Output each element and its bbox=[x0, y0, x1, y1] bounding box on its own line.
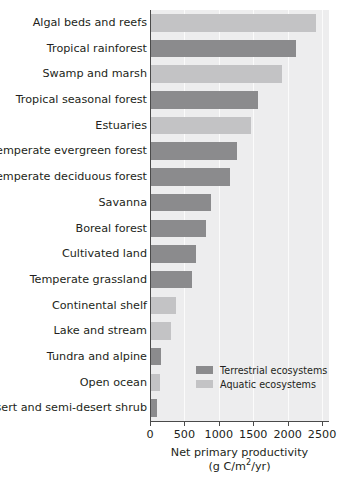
chart-row: Cultivated land bbox=[0, 241, 344, 267]
category-label: Desert and semi-desert shrub bbox=[0, 395, 147, 421]
chart-row: Estuaries bbox=[0, 113, 344, 139]
chart-row: Temperate grassland bbox=[0, 267, 344, 293]
x-axis-title: Net primary productivity (g C/m2/yr) bbox=[150, 446, 329, 474]
bar bbox=[151, 399, 157, 417]
x-tick-label: 2500 bbox=[292, 428, 344, 441]
x-axis-line bbox=[150, 421, 329, 422]
bar bbox=[151, 374, 160, 392]
category-label: Tropical rainforest bbox=[47, 36, 147, 62]
category-label: Tundra and alpine bbox=[47, 344, 147, 370]
legend-label-aquatic: Aquatic ecosystems bbox=[220, 379, 316, 390]
x-axis-title-line2: (g C/m2/yr) bbox=[150, 460, 329, 474]
chart-row: Tropical rainforest bbox=[0, 36, 344, 62]
chart-row: Desert and semi-desert shrub bbox=[0, 395, 344, 421]
category-label: Cultivated land bbox=[62, 241, 147, 267]
npp-bar-chart: Algal beds and reefsTropical rainforestS… bbox=[0, 0, 344, 483]
category-label: Open ocean bbox=[80, 370, 147, 396]
chart-row: Temperate deciduous forest bbox=[0, 164, 344, 190]
bar bbox=[151, 322, 171, 340]
x-tick-mark bbox=[322, 421, 323, 426]
legend-swatch-terrestrial-icon bbox=[196, 366, 213, 374]
chart-legend: Terrestrial ecosystems Aquatic ecosystem… bbox=[196, 363, 327, 391]
x-tick-mark bbox=[219, 421, 220, 426]
bar bbox=[151, 40, 296, 58]
category-label: Temperate deciduous forest bbox=[0, 164, 147, 190]
legend-label-terrestrial: Terrestrial ecosystems bbox=[220, 365, 327, 376]
bar bbox=[151, 348, 161, 366]
bar bbox=[151, 142, 237, 160]
category-label: Swamp and marsh bbox=[42, 61, 147, 87]
x-axis-units-post: /yr) bbox=[251, 460, 270, 473]
x-axis-units-pre: (g C/m bbox=[209, 460, 247, 473]
bar bbox=[151, 117, 251, 135]
category-label: Algal beds and reefs bbox=[33, 10, 147, 36]
x-tick-mark bbox=[150, 421, 151, 426]
x-tick-mark bbox=[253, 421, 254, 426]
x-tick-mark bbox=[288, 421, 289, 426]
chart-row: Boreal forest bbox=[0, 216, 344, 242]
category-label: Estuaries bbox=[95, 113, 147, 139]
category-label: Temperate grassland bbox=[30, 267, 147, 293]
bar bbox=[151, 91, 258, 109]
chart-row: Algal beds and reefs bbox=[0, 10, 344, 36]
bar bbox=[151, 65, 282, 83]
x-tick-mark bbox=[184, 421, 185, 426]
category-label: Temperate evergreen forest bbox=[0, 138, 147, 164]
bar bbox=[151, 271, 192, 289]
bar bbox=[151, 194, 211, 212]
legend-swatch-aquatic-icon bbox=[196, 380, 213, 388]
bar bbox=[151, 168, 230, 186]
chart-row: Swamp and marsh bbox=[0, 61, 344, 87]
category-label: Lake and stream bbox=[54, 318, 147, 344]
bar bbox=[151, 220, 206, 238]
category-label: Continental shelf bbox=[52, 293, 147, 319]
category-label: Boreal forest bbox=[75, 216, 147, 242]
x-axis-title-line1: Net primary productivity bbox=[171, 446, 308, 459]
category-label: Tropical seasonal forest bbox=[16, 87, 147, 113]
legend-item-terrestrial: Terrestrial ecosystems bbox=[196, 363, 327, 377]
chart-row: Lake and stream bbox=[0, 318, 344, 344]
category-label: Savanna bbox=[99, 190, 147, 216]
bar bbox=[151, 297, 176, 315]
bar bbox=[151, 245, 196, 263]
chart-row: Tropical seasonal forest bbox=[0, 87, 344, 113]
bar bbox=[151, 14, 316, 32]
legend-item-aquatic: Aquatic ecosystems bbox=[196, 377, 327, 391]
chart-row: Savanna bbox=[0, 190, 344, 216]
chart-row: Continental shelf bbox=[0, 293, 344, 319]
chart-row: Temperate evergreen forest bbox=[0, 138, 344, 164]
